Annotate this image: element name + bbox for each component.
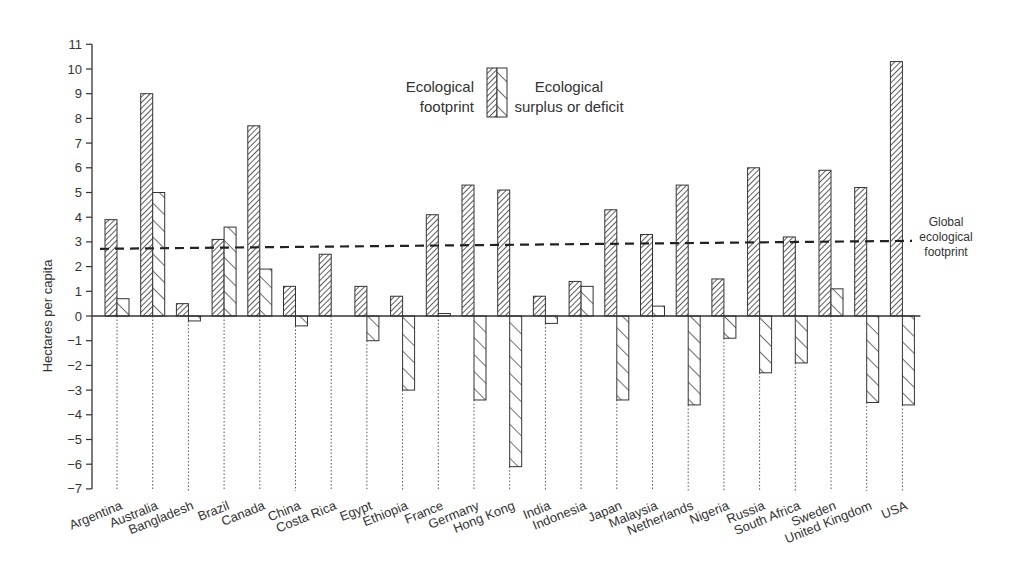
legend-surplus-line1: Ecological <box>535 78 603 95</box>
y-tick-label: 9 <box>75 86 82 101</box>
y-tick-label: −3 <box>67 383 82 398</box>
surplus-deficit-bar <box>795 316 807 363</box>
footprint-bar <box>676 185 688 316</box>
surplus-deficit-bar <box>902 316 914 405</box>
surplus-deficit-bar <box>296 316 308 326</box>
y-tick-label: 3 <box>75 234 82 249</box>
surplus-deficit-bar <box>724 316 736 338</box>
y-tick-label: 8 <box>75 111 82 126</box>
surplus-deficit-bar <box>760 316 772 373</box>
surplus-deficit-bar <box>831 289 843 316</box>
bars <box>105 62 914 467</box>
footprint-bar <box>533 296 545 316</box>
surplus-deficit-bar <box>367 316 379 341</box>
footprint-bar <box>855 188 867 316</box>
footprint-bar <box>355 286 367 316</box>
legend-footprint-line1: Ecological <box>406 78 474 95</box>
footprint-bar <box>212 239 224 316</box>
y-tick-label: 4 <box>75 210 82 225</box>
x-tick-label: USA <box>879 498 910 522</box>
y-axis: −7−6−5−4−3−2−101234567891011 <box>67 37 92 497</box>
svg-text:Global: Global <box>929 215 964 229</box>
y-tick-label: −4 <box>67 407 82 422</box>
footprint-bar <box>319 254 331 316</box>
surplus-deficit-bar <box>117 299 129 316</box>
svg-text:ecological: ecological <box>919 230 972 244</box>
y-tick-label: 5 <box>75 185 82 200</box>
y-tick-label: 2 <box>75 259 82 274</box>
surplus-deficit-bar <box>867 316 879 402</box>
footprint-bar <box>284 286 296 316</box>
surplus-deficit-bar <box>581 286 593 316</box>
y-tick-label: 11 <box>69 37 83 52</box>
footprint-bar <box>248 126 260 316</box>
footprint-bar <box>462 185 474 316</box>
surplus-deficit-bar <box>224 227 236 316</box>
surplus-deficit-bar <box>545 316 557 323</box>
footprint-bar <box>605 210 617 316</box>
footprint-bar <box>641 234 653 316</box>
y-tick-label: 7 <box>75 136 82 151</box>
y-axis-label: Hectares per capita <box>40 259 55 372</box>
surplus-deficit-bar <box>188 316 200 321</box>
svg-text:footprint: footprint <box>924 245 968 259</box>
footprint-bar <box>783 237 795 316</box>
y-tick-label: −6 <box>67 457 82 472</box>
surplus-deficit-bar <box>653 306 665 316</box>
footprint-bar <box>569 281 581 316</box>
legend: Ecological footprint Ecological surplus … <box>406 68 625 117</box>
y-tick-label: 6 <box>75 160 82 175</box>
y-tick-label: −7 <box>67 481 82 496</box>
surplus-deficit-bar <box>510 316 522 467</box>
legend-swatch <box>487 68 507 117</box>
surplus-deficit-bar <box>403 316 415 390</box>
surplus-deficit-bar <box>260 269 272 316</box>
y-tick-label: −5 <box>67 432 82 447</box>
surplus-deficit-bar <box>617 316 629 400</box>
surplus-deficit-bar <box>688 316 700 405</box>
footprint-bar <box>391 296 403 316</box>
legend-surplus-line2: surplus or deficit <box>514 98 624 115</box>
y-tick-label: −1 <box>67 333 82 348</box>
y-tick-label: 10 <box>68 62 82 77</box>
surplus-deficit-bar <box>153 193 165 317</box>
legend-footprint-line2: footprint <box>420 98 475 115</box>
footprint-bar <box>819 170 831 316</box>
footprint-bar <box>141 94 153 316</box>
surplus-deficit-bar <box>474 316 486 400</box>
footprint-bar <box>426 215 438 316</box>
footprint-bar <box>890 62 902 316</box>
x-axis-labels: ArgentinaAustraliaBangladeshBrazilCanada… <box>67 497 910 546</box>
bar-chart: −7−6−5−4−3−2−101234567891011 ArgentinaAu… <box>0 0 1025 569</box>
y-tick-label: 1 <box>75 284 82 299</box>
y-tick-label: −2 <box>67 358 82 373</box>
footprint-bar <box>498 190 510 316</box>
footprint-bar <box>176 304 188 316</box>
y-tick-label: 0 <box>75 309 82 324</box>
footprint-bar <box>712 279 724 316</box>
reference-label: Global ecological footprint <box>919 215 972 259</box>
footprint-bar <box>105 220 117 316</box>
